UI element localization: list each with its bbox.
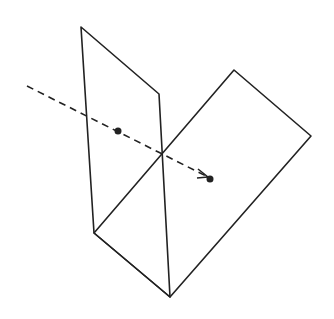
diagram-canvas [0,0,334,319]
tilted-plane [94,70,311,297]
target-point [207,176,214,183]
source-point [115,128,122,135]
diagram-svg [0,0,334,319]
vertical-plane [81,27,170,297]
arrowhead-icon [197,169,208,178]
